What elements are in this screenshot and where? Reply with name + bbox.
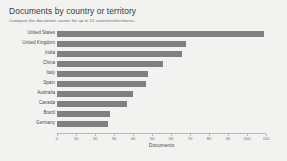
- bar-category-label: Canada: [39, 100, 55, 107]
- bar[interactable]: [57, 51, 182, 57]
- x-axis-tick-label: 0: [56, 136, 58, 141]
- x-axis-tick-label: 20: [93, 136, 98, 141]
- bar-rows: United StatesUnited KingdomIndiaChinaIta…: [0, 29, 287, 129]
- x-axis-tick-label: 30: [112, 136, 117, 141]
- x-axis-title: Documents: [57, 142, 266, 148]
- x-axis-tick-label: 40: [131, 136, 136, 141]
- bar[interactable]: [57, 61, 163, 67]
- bar[interactable]: [57, 111, 110, 117]
- x-axis-tick-label: 100: [244, 136, 251, 141]
- bar-category-label: China: [43, 60, 55, 67]
- bar-row: Italy: [0, 69, 287, 79]
- bar-category-label: United Kingdom: [22, 40, 55, 47]
- bar-row: Australia: [0, 89, 287, 99]
- x-axis-tick-label: 50: [150, 136, 155, 141]
- bar-category-label: United States: [27, 30, 55, 37]
- bar-category-label: Germany: [36, 120, 55, 127]
- bar[interactable]: [57, 121, 108, 127]
- x-axis-tick-label: 60: [169, 136, 174, 141]
- bar-row: Germany: [0, 119, 287, 129]
- x-axis-tick-label: 10: [74, 136, 79, 141]
- bar[interactable]: [57, 41, 186, 47]
- bar[interactable]: [57, 71, 148, 77]
- bar[interactable]: [57, 91, 133, 97]
- bar-category-label: Spain: [43, 80, 55, 87]
- bar-category-label: Brazil: [44, 110, 56, 117]
- bar-row: India: [0, 49, 287, 59]
- bar-row: Spain: [0, 79, 287, 89]
- bar-row: China: [0, 59, 287, 69]
- x-axis-tick-label: 90: [226, 136, 231, 141]
- x-axis-tick-label: 80: [207, 136, 212, 141]
- bar-chart-plot-area: United StatesUnited KingdomIndiaChinaIta…: [0, 29, 287, 161]
- chart-card: Documents by country or territory Compar…: [0, 0, 287, 161]
- bar-category-label: Italy: [47, 70, 55, 77]
- page-title: Documents by country or territory: [9, 6, 279, 16]
- chart-subtitle: Compare the document counts for up to 15…: [9, 18, 279, 24]
- bar-row: United States: [0, 29, 287, 39]
- bar[interactable]: [57, 81, 146, 87]
- x-axis-tick-label: 70: [188, 136, 193, 141]
- bar-row: Canada: [0, 99, 287, 109]
- bar-category-label: Australia: [37, 90, 55, 97]
- bar-row: Brazil: [0, 109, 287, 119]
- x-axis-tick-label: 110: [263, 136, 270, 141]
- bar[interactable]: [57, 31, 264, 37]
- bar[interactable]: [57, 101, 127, 107]
- chart-header: Documents by country or territory Compar…: [9, 6, 279, 24]
- bar-row: United Kingdom: [0, 39, 287, 49]
- bar-category-label: India: [45, 50, 55, 57]
